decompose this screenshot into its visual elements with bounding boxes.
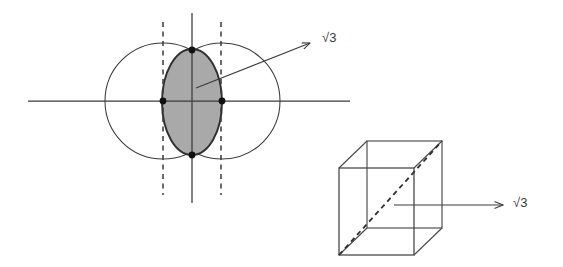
figure-canvas: √3 √3 xyxy=(0,0,563,267)
lens-sqrt3-label: √3 xyxy=(322,30,337,45)
left-center-point xyxy=(160,98,167,105)
cube-edge-bottom-left xyxy=(339,228,367,255)
bottom-intersection-point xyxy=(189,152,196,159)
cube-sqrt3-label: √3 xyxy=(513,195,528,210)
cube-edge-bottom-right xyxy=(414,228,442,255)
top-intersection-point xyxy=(189,47,196,54)
right-center-point xyxy=(219,98,226,105)
left-diagram-group xyxy=(28,13,350,203)
cube-front-face xyxy=(339,168,414,255)
cube-edge-top-left xyxy=(339,141,367,168)
right-diagram-group xyxy=(339,141,503,255)
geometry-diagram-svg xyxy=(0,0,563,267)
cube-space-diagonal xyxy=(339,141,442,255)
